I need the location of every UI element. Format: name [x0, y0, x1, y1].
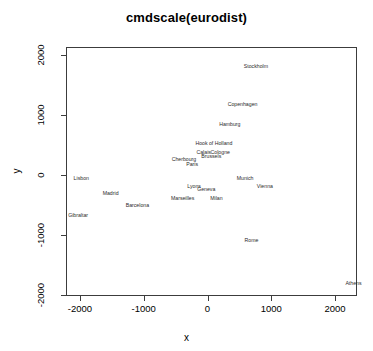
y-axis-tick [61, 175, 66, 176]
data-point-label: Vienna [257, 183, 273, 189]
plot-canvas: cmdscale(eurodist) AthensBarcelonaBrusse… [0, 0, 373, 351]
x-axis-tick-label: -2000 [68, 303, 92, 314]
y-axis-tick-label: -1000 [35, 223, 46, 247]
x-axis-tick [335, 296, 336, 301]
y-axis-tick [61, 295, 66, 296]
data-point-label: Marseilles [171, 195, 194, 201]
x-axis-tick-label: -1000 [132, 303, 156, 314]
x-axis-tick [80, 296, 81, 301]
x-axis-tick-label: 2000 [324, 303, 345, 314]
y-axis-tick-label: 2000 [35, 44, 46, 65]
y-axis-tick-label: 0 [35, 172, 46, 177]
data-point-label: Hamburg [219, 121, 240, 127]
data-point-label: Lyons [187, 183, 201, 189]
y-axis-tick [61, 235, 66, 236]
data-point-label: Rome [245, 237, 259, 243]
x-axis-tick [208, 296, 209, 301]
x-axis-tick [144, 296, 145, 301]
data-point-label: Paris [186, 161, 198, 167]
y-axis-tick-label: 1000 [35, 104, 46, 125]
data-point-label: Calais [196, 149, 210, 155]
data-point-label: Gibraltar [68, 212, 88, 218]
data-point-label: Stockholm [244, 63, 268, 69]
x-axis-tick [271, 296, 272, 301]
x-axis-tick-label: 0 [205, 303, 210, 314]
data-point-label: Cologne [211, 149, 230, 155]
plot-frame [66, 47, 357, 296]
y-axis-tick-label: -2000 [35, 283, 46, 307]
y-axis-tick [61, 115, 66, 116]
data-point-label: Lisbon [74, 175, 89, 181]
data-point-label: Milan [210, 195, 222, 201]
page-title: cmdscale(eurodist) [0, 10, 373, 25]
x-axis-label: x [0, 332, 373, 343]
data-point-label: Hook of Holland [195, 140, 232, 146]
y-axis-label: y [11, 169, 22, 174]
data-point-label: Barcelona [126, 202, 149, 208]
y-axis-tick [61, 55, 66, 56]
x-axis-tick-label: 1000 [261, 303, 282, 314]
data-point-label: Munich [237, 175, 254, 181]
data-point-label: Madrid [103, 190, 119, 196]
data-point-label: Copenhagen [228, 101, 258, 107]
data-point-label: Athens [345, 280, 361, 286]
